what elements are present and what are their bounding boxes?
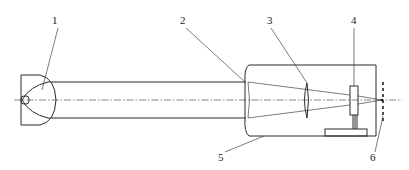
converging-ray-bottom [248, 105, 350, 118]
label-2: 2 [180, 14, 186, 26]
label-3: 3 [267, 14, 273, 26]
optical-diagram: 1 2 3 4 5 6 [0, 0, 409, 170]
converging-ray-top [248, 82, 350, 95]
label-6: 6 [370, 151, 376, 163]
label-1: 1 [52, 14, 58, 26]
leader-2 [186, 28, 245, 82]
focusing-lens [305, 83, 309, 118]
label-5: 5 [218, 151, 224, 163]
leader-3 [271, 28, 307, 83]
collimating-lens [245, 65, 249, 136]
leader-5 [225, 136, 264, 152]
sample-holder [325, 86, 367, 136]
label-4: 4 [351, 14, 357, 26]
